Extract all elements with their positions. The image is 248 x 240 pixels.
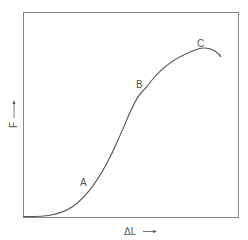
point-label-c: C xyxy=(197,38,204,49)
force-extension-curve xyxy=(23,48,221,217)
force-extension-diagram: A B C F ΔL xyxy=(0,0,248,240)
x-axis-label: ΔL xyxy=(124,226,137,237)
plot-frame xyxy=(24,13,239,218)
point-label-b: B xyxy=(136,79,143,90)
y-axis-label: F xyxy=(8,122,19,128)
up-arrow-head-icon xyxy=(13,100,16,104)
point-label-a: A xyxy=(80,177,87,188)
x-axis-label-group: ΔL xyxy=(124,226,157,237)
y-axis-label-group: F xyxy=(8,100,19,128)
right-arrow-head-icon xyxy=(153,230,157,233)
